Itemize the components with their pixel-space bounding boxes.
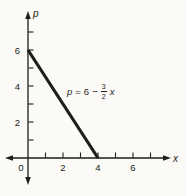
p-axis-label: p xyxy=(32,8,39,19)
line-equation: p = 6 − 3 2 x xyxy=(67,83,114,100)
equation-intercept: 6 xyxy=(84,86,89,97)
equation-lhs: p xyxy=(67,86,72,97)
p-axis-top-arrow xyxy=(25,11,31,19)
p-tick-label: 2 xyxy=(15,117,20,128)
equation-minus: − xyxy=(92,86,98,97)
x-tick-label: 4 xyxy=(95,162,100,173)
demand-line xyxy=(28,50,98,158)
origin-label: 0 xyxy=(18,162,23,173)
x-tick-label: 2 xyxy=(60,162,65,173)
fraction-numerator: 3 xyxy=(101,83,107,92)
x-axis-right-arrow xyxy=(163,155,171,161)
equation-equals: = xyxy=(75,86,81,97)
equation-fraction: 3 2 xyxy=(101,83,107,100)
x-tick-label: 6 xyxy=(130,162,135,173)
p-tick-label: 4 xyxy=(15,81,20,92)
fraction-denominator: 2 xyxy=(102,92,106,100)
figure: p x 0 246246 p = 6 − 3 2 x xyxy=(0,0,187,196)
equation-variable: x xyxy=(110,86,115,97)
x-axis-label: x xyxy=(172,153,179,164)
x-axis-left-arrow xyxy=(5,155,13,161)
p-axis-bottom-arrow xyxy=(25,177,31,185)
p-tick-label: 6 xyxy=(15,45,20,56)
